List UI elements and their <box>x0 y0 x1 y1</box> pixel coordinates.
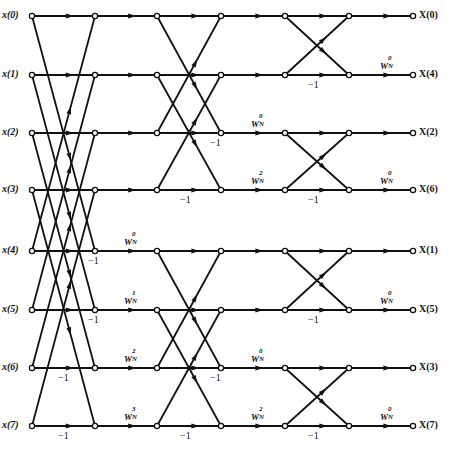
arrow-icon <box>255 249 263 254</box>
twiddle-factor-label: W0N <box>380 59 394 71</box>
minus-one-label: −1 <box>308 315 319 325</box>
arrow-icon <box>66 281 71 289</box>
node <box>154 130 159 135</box>
arrow-icon <box>66 106 71 114</box>
node <box>346 365 351 370</box>
output-label: X(3) <box>419 362 438 372</box>
output-label: X(5) <box>419 304 438 314</box>
arrow-icon <box>255 131 263 136</box>
twiddle-factor-label: W2N <box>124 352 138 364</box>
minus-one-label: −1 <box>210 373 221 383</box>
twiddle-factor-label: W0N <box>251 352 265 364</box>
arrow-icon <box>191 375 197 383</box>
arrow-icon <box>383 188 391 193</box>
node <box>29 72 34 77</box>
input-label: x(7) <box>2 420 19 430</box>
input-label: x(6) <box>2 362 19 372</box>
arrow-icon <box>191 308 199 313</box>
node <box>282 248 287 253</box>
node <box>346 13 351 18</box>
node <box>154 365 159 370</box>
arrow-icon <box>191 188 199 193</box>
arrow-icon <box>383 308 391 313</box>
node <box>410 365 415 370</box>
arrow-icon <box>319 366 327 371</box>
arrow-icon <box>255 14 263 19</box>
arrow-icon <box>66 165 71 173</box>
node <box>92 307 97 312</box>
arrow-icon <box>319 131 327 136</box>
output-label: X(2) <box>419 127 438 137</box>
arrow-icon <box>66 424 74 429</box>
arrow-icon <box>383 249 391 254</box>
node <box>92 130 97 135</box>
twiddle-factor-label: W1N <box>124 294 138 306</box>
node <box>92 187 97 192</box>
node <box>29 365 34 370</box>
arrow-icon <box>383 73 391 78</box>
minus-one-label: −1 <box>308 431 319 441</box>
node <box>282 13 287 18</box>
input-label: x(3) <box>2 184 19 194</box>
node <box>346 307 351 312</box>
minus-one-label: −1 <box>210 138 221 148</box>
arrow-icon <box>255 188 263 193</box>
minus-one-label: −1 <box>308 195 319 205</box>
arrow-icon <box>255 308 263 313</box>
node <box>410 187 415 192</box>
node <box>92 365 97 370</box>
twiddle-factor-label: W0N <box>124 235 138 247</box>
node <box>29 423 34 428</box>
node <box>218 130 223 135</box>
arrow-icon <box>319 14 327 19</box>
node <box>154 307 159 312</box>
node <box>410 248 415 253</box>
arrow-icon <box>66 14 74 19</box>
twiddle-factor-label: W0N <box>380 294 394 306</box>
arrow-icon <box>66 73 74 78</box>
arrow-icon <box>128 14 136 19</box>
arrow-icon <box>319 308 327 313</box>
node <box>154 423 159 428</box>
arrow-icon <box>66 308 74 313</box>
arrow-icon <box>128 308 136 313</box>
arrow-icon <box>66 212 71 220</box>
node <box>218 423 223 428</box>
arrow-icon <box>128 131 136 136</box>
input-label: x(0) <box>2 10 19 20</box>
output-label: X(0) <box>419 10 438 20</box>
arrow-icon <box>128 249 136 254</box>
node <box>282 423 287 428</box>
arrow-icon <box>255 424 263 429</box>
output-label: X(6) <box>419 184 438 194</box>
node <box>92 248 97 253</box>
arrow-icon <box>191 82 197 90</box>
arrow-icon <box>191 294 197 302</box>
node <box>218 307 223 312</box>
node <box>218 365 223 370</box>
arrow-icon <box>128 73 136 78</box>
arrow-icon <box>383 131 391 136</box>
arrow-icon <box>191 118 197 126</box>
node <box>154 72 159 77</box>
arrow-icon <box>255 366 263 371</box>
arrow-icon <box>383 424 391 429</box>
node <box>282 72 287 77</box>
node <box>346 423 351 428</box>
node <box>410 130 415 135</box>
arrow-icon <box>191 14 199 19</box>
arrow-icon <box>319 249 327 254</box>
minus-one-label: −1 <box>88 256 99 266</box>
minus-one-label: −1 <box>58 431 69 441</box>
node <box>29 307 34 312</box>
arrow-icon <box>191 366 199 371</box>
node <box>218 187 223 192</box>
node <box>282 307 287 312</box>
arrow-icon <box>66 366 74 371</box>
input-label: x(2) <box>2 127 19 137</box>
node <box>410 72 415 77</box>
arrow-icon <box>66 270 71 278</box>
node <box>346 130 351 135</box>
node <box>29 248 34 253</box>
output-label: X(4) <box>419 69 438 79</box>
